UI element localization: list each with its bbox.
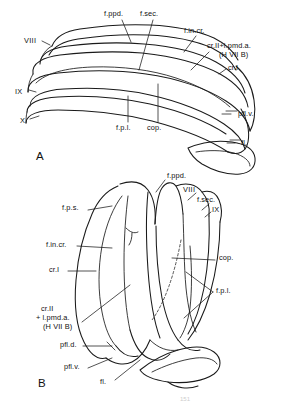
leader-b-f-p-s: [88, 206, 112, 210]
label-a-f-in-cr: f.in.cr.: [184, 27, 205, 36]
panel-a-drawing: [26, 20, 255, 388]
label-a-cr1: cr.I: [228, 64, 238, 73]
leader-b-pfl-v: [88, 358, 112, 368]
label-b-fl: fl.: [100, 378, 106, 387]
leader-a-ix: [29, 90, 36, 92]
label-a-ix: IX: [15, 88, 23, 97]
label-a-f-p-l: f.p.l.: [116, 124, 131, 133]
label-b-viii: VIII: [183, 186, 195, 195]
label-b-f-sec: f.sec.: [197, 196, 215, 205]
leader-b-fl: [115, 360, 140, 380]
figure-root: f.ppd. f.sec. f.in.cr. cr.II+l.pmd.a. (H…: [0, 0, 290, 406]
label-b-cr1: cr.I: [49, 266, 59, 275]
caption-mark: 151: [180, 396, 190, 402]
label-a-cop: cop.: [147, 124, 161, 133]
panel-letter-a: A: [36, 150, 44, 162]
label-b-pfl-d: pfl.d.: [60, 341, 77, 350]
leader-b-ix: [205, 212, 211, 217]
label-a-x: X: [20, 117, 25, 126]
leader-a-f-in-cr: [184, 36, 196, 52]
leader-b-f-in-cr: [77, 246, 112, 248]
figure-drawing: [0, 0, 290, 406]
label-b-hviib: (H VII B): [43, 323, 72, 332]
panel-b-drawing: [68, 180, 221, 388]
label-a-viii: VIII: [24, 37, 36, 46]
label-b-f-ppd: f.ppd.: [167, 172, 186, 181]
leader-a-cr1: [219, 69, 226, 74]
label-a-f-sec: f.sec.: [140, 10, 158, 19]
label-b-pfl-v: pfl.v.: [64, 363, 80, 372]
leader-b-f-p-l-upper: [186, 272, 213, 292]
leader-a-viii: [42, 41, 50, 45]
label-b-f-in-cr: f.in.cr.: [46, 241, 67, 250]
panel-letter-b: B: [38, 377, 46, 389]
label-a-pfl-v: pfl.v.: [238, 110, 254, 119]
label-a-fl: fl.: [241, 139, 247, 148]
label-b-cop: cop.: [219, 254, 233, 263]
leader-b-f-sec: [202, 204, 209, 210]
label-b-ix: IX: [212, 206, 220, 215]
label-b-f-p-l: f.p.l.: [216, 287, 231, 296]
label-a-f-ppd: f.ppd.: [104, 10, 123, 19]
leader-b-cr2: [82, 285, 130, 322]
leader-b-cop: [172, 258, 215, 260]
label-a-hviib: (H VII B): [219, 51, 248, 60]
label-b-f-p-s: f.p.s.: [62, 204, 79, 213]
leader-a-f-ppd: [122, 20, 131, 42]
leader-a-x: [30, 116, 39, 119]
